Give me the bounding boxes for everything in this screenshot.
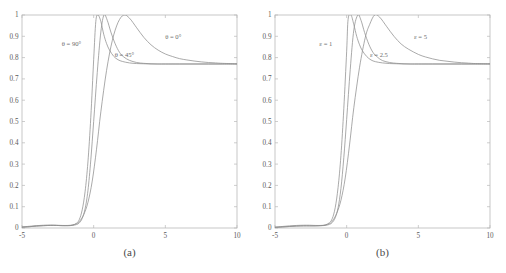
curves-group: [22, 15, 237, 228]
y-tick-label: 0.8: [263, 54, 272, 62]
y-tick-label: 1: [268, 11, 272, 19]
panel-a: 00.10.20.30.40.50.60.70.80.91-50510θ = 9…: [0, 0, 253, 273]
curve-annotation: θ = 90°: [62, 40, 82, 47]
x-tick-label: 5: [164, 232, 168, 240]
y-tick-label: 0.3: [263, 161, 272, 169]
y-tick-label: 0.9: [10, 33, 19, 41]
y-tick-label: 0.5: [263, 118, 272, 126]
x-tick-label: 0: [345, 232, 349, 240]
x-tick-label: -5: [19, 232, 25, 240]
curve-annotation: θ = 45°: [115, 51, 135, 58]
y-tick-label: 0.2: [10, 182, 19, 190]
y-tick-label: 0.1: [263, 203, 272, 211]
x-tick-label: 10: [233, 232, 241, 240]
panel-a-plot: 00.10.20.30.40.50.60.70.80.91-50510θ = 9…: [0, 0, 253, 273]
y-tick-label: 0.3: [10, 161, 19, 169]
curve-annotation: θ = 0°: [165, 33, 181, 40]
data-curve: [275, 15, 490, 228]
curve-annotation: ε = 2.5: [370, 51, 389, 58]
y-tick-label: 0.6: [263, 97, 272, 105]
y-tick-label: 0.4: [10, 139, 19, 147]
y-tick-label: 0.6: [10, 97, 19, 105]
y-tick-label: 0.5: [10, 118, 19, 126]
y-tick-label: 1: [15, 11, 19, 19]
y-tick-label: 0.7: [263, 75, 272, 83]
panel-caption: (a): [123, 246, 136, 259]
curve-annotation: ε = 1: [319, 40, 332, 47]
x-tick-label: 10: [486, 232, 494, 240]
curve-annotation: ε = 5: [414, 33, 428, 40]
y-tick-label: 0.1: [10, 203, 19, 211]
panel-b: 00.10.20.30.40.50.60.70.80.91-50510ε = 1…: [253, 0, 506, 273]
panel-b-plot: 00.10.20.30.40.50.60.70.80.91-50510ε = 1…: [253, 0, 506, 273]
y-tick-label: 0.2: [263, 182, 272, 190]
panel-caption: (b): [376, 246, 389, 259]
data-curve: [22, 15, 237, 228]
x-tick-label: -5: [272, 232, 278, 240]
x-tick-label: 5: [417, 232, 421, 240]
data-curve: [275, 14, 490, 227]
x-tick-label: 0: [92, 232, 96, 240]
data-curve: [275, 15, 490, 228]
data-curve: [22, 15, 237, 227]
data-curve: [22, 15, 237, 227]
y-tick-label: 0.9: [263, 33, 272, 41]
y-tick-label: 0.7: [10, 75, 19, 83]
figure-container: 00.10.20.30.40.50.60.70.80.91-50510θ = 9…: [0, 0, 506, 273]
y-tick-label: 0.8: [10, 54, 19, 62]
curves-group: [275, 14, 490, 227]
y-tick-label: 0.4: [263, 139, 272, 147]
